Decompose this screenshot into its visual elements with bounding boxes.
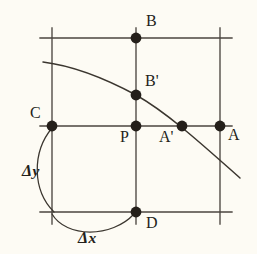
delta-y-label: Δy (21, 162, 40, 179)
point-label-C: C (30, 104, 41, 121)
point-label-P: P (120, 128, 129, 145)
point-marker-B (131, 33, 142, 44)
point-marker-Bp (131, 90, 142, 101)
point-label-A: A (228, 126, 240, 143)
delta-x-glyph: Δ (77, 229, 88, 246)
point-label-B: B (146, 12, 157, 29)
point-label-D: D (146, 214, 158, 231)
point-marker-D (131, 207, 142, 218)
point-marker-P (131, 121, 142, 132)
point-label-Bp: B' (145, 72, 159, 89)
figure-container: ΔyΔx BB'CPA'AD (0, 0, 257, 254)
delta-x-label: Δx (77, 229, 97, 246)
point-marker-Ap (177, 121, 188, 132)
point-label-Ap: A' (159, 128, 174, 145)
delta-x-variable: x (88, 229, 97, 246)
delta-y-variable: y (31, 162, 40, 179)
delta-y-glyph: Δ (21, 162, 32, 179)
diagram-canvas: ΔyΔx BB'CPA'AD (0, 0, 257, 254)
point-marker-C (47, 121, 58, 132)
point-marker-A (215, 121, 226, 132)
